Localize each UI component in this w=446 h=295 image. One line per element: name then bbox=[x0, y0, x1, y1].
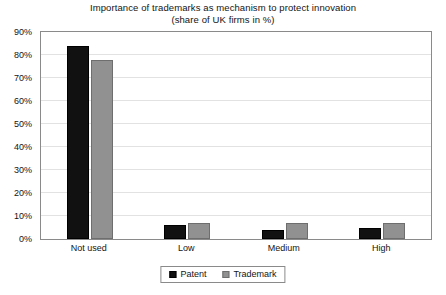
chart-subtitle: (share of UK firms in %) bbox=[0, 14, 446, 26]
y-axis-tick-label: 70% bbox=[14, 74, 32, 83]
x-axis-tick-label: Medium bbox=[268, 243, 300, 254]
chart-title-line-1: Importance of trademarks as mechanism to… bbox=[90, 2, 356, 13]
bars-layer bbox=[41, 32, 431, 239]
y-axis-tick-label: 90% bbox=[14, 28, 32, 37]
chart-title: Importance of trademarks as mechanism to… bbox=[0, 2, 446, 26]
x-axis-tick-label: Not used bbox=[71, 243, 107, 254]
y-axis-tick-label: 60% bbox=[14, 97, 32, 106]
legend-swatch-patent bbox=[169, 271, 176, 278]
y-axis-tick-label: 80% bbox=[14, 51, 32, 60]
bar-trademark-medium bbox=[286, 223, 308, 239]
chart-legend: PatentTrademark bbox=[160, 266, 285, 283]
bar-patent-high bbox=[359, 228, 381, 240]
y-axis-tick-label: 30% bbox=[14, 166, 32, 175]
y-axis-tick-label: 10% bbox=[14, 212, 32, 221]
legend-swatch-trademark bbox=[222, 271, 229, 278]
plot-area bbox=[40, 31, 432, 240]
y-axis-tick-label: 0% bbox=[19, 235, 32, 244]
legend-label-trademark: Trademark bbox=[233, 269, 276, 279]
bar-chart: Importance of trademarks as mechanism to… bbox=[0, 0, 446, 295]
y-axis-tick-label: 50% bbox=[14, 120, 32, 129]
bar-trademark-not-used bbox=[91, 60, 113, 239]
bar-patent-not-used bbox=[67, 46, 89, 239]
bar-patent-low bbox=[164, 225, 186, 239]
legend-item-trademark: Trademark bbox=[222, 269, 276, 279]
y-axis-tick-label: 20% bbox=[14, 189, 32, 198]
bar-trademark-high bbox=[383, 223, 405, 239]
bar-patent-medium bbox=[262, 230, 284, 239]
y-axis: 90%80%70%60%50%40%30%20%10%0% bbox=[0, 31, 36, 240]
x-axis-tick-label: Low bbox=[178, 243, 195, 254]
bar-trademark-low bbox=[188, 223, 210, 239]
legend-item-patent: Patent bbox=[169, 269, 206, 279]
x-axis: Not usedLowMediumHigh bbox=[40, 243, 432, 259]
y-axis-tick-label: 40% bbox=[14, 143, 32, 152]
x-axis-tick-label: High bbox=[372, 243, 391, 254]
legend-label-patent: Patent bbox=[180, 269, 206, 279]
